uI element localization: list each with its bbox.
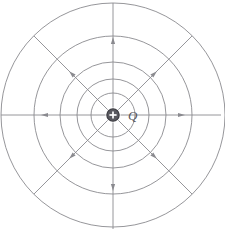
field-line-down-arrowhead-icon (111, 184, 115, 191)
electric-field-diagram: Q (0, 0, 225, 229)
charge-label: Q (128, 108, 138, 123)
field-line-up-arrowhead-icon (111, 37, 115, 44)
field-diagram-canvas: Q (0, 0, 225, 229)
field-line-right-arrowhead-icon (178, 113, 185, 117)
point-charge (107, 109, 119, 121)
field-line-left-arrowhead-icon (41, 113, 48, 117)
